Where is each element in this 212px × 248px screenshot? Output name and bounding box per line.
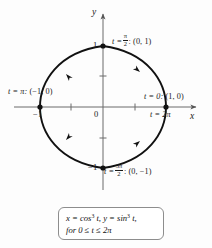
annotation-t-zero: t = 0: (1, 0) <box>144 93 184 101</box>
figure-container: x y 0 −1 1 −1 t =π2: (0, 1) t = π: (−1, … <box>0 0 212 248</box>
caption-y-equation: t, y = sin <box>94 213 127 223</box>
annotation-t-pi: t = π: (−1, 0) <box>8 88 53 96</box>
x-tick-label-neg1: −1 <box>33 110 42 119</box>
cusp-point-t0 <box>163 104 168 109</box>
caption-x-equation: x = cos <box>66 213 91 223</box>
y-axis-label: y <box>92 8 96 18</box>
fraction-denominator: 2 <box>123 41 128 48</box>
direction-arrow-lower-left <box>64 133 73 142</box>
annotation-t-pi-prefix: t = π: <box>8 87 27 96</box>
y-tick-label-neg1: −1 <box>88 163 97 172</box>
x-axis-label: x <box>190 112 194 122</box>
annotation-t-zero-point: (1, 0) <box>165 92 183 101</box>
direction-arrow-upper-left <box>64 72 73 81</box>
annotation-t-two-pi: t = 2π <box>150 111 171 119</box>
caption-line-range: for 0 ≤ t ≤ 2π <box>66 224 163 236</box>
annotation-t-three-half-pi: t =3π2: (0, −1) <box>104 163 152 177</box>
equation-caption-box: x = cos3 t, y = sin3 t, for 0 ≤ t ≤ 2π <box>58 207 164 240</box>
annotation-t-pi-point: (−1, 0) <box>29 87 52 96</box>
caption-equation-tail: t, <box>130 213 137 223</box>
annotation-t-half-pi-point: : (0, 1) <box>129 37 152 46</box>
fraction-3pi-over-2: 3π2 <box>115 163 124 177</box>
direction-arrow-lower-right <box>133 139 142 147</box>
direction-arrow-upper-right <box>133 65 142 73</box>
y-tick-label-pos1: 1 <box>93 41 97 50</box>
annotation-t-three-half-pi-prefix: t = <box>104 167 114 176</box>
annotation-t-zero-prefix: t = 0: <box>144 92 163 101</box>
annotation-t-half-pi: t =π2: (0, 1) <box>112 33 151 47</box>
annotation-t-three-half-pi-point: : (0, −1) <box>124 167 152 176</box>
cusp-point-half-pi <box>100 43 105 48</box>
caption-range-text: for 0 ≤ t ≤ 2π <box>66 225 112 235</box>
caption-line-equations: x = cos3 t, y = sin3 t, <box>66 212 163 224</box>
fraction-pi-over-2: π2 <box>123 33 128 47</box>
annotation-t-half-pi-prefix: t = <box>112 37 122 46</box>
fraction-denominator: 2 <box>115 171 124 178</box>
origin-label: 0 <box>94 110 98 119</box>
